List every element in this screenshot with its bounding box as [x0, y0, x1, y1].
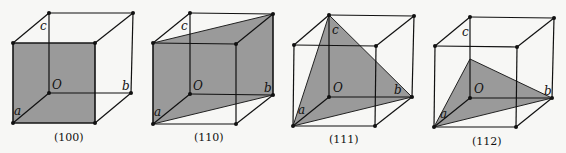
axis-label-b: b: [122, 79, 130, 93]
plane-110: [153, 14, 273, 124]
cube-panel-100: c O b a (100): [11, 11, 135, 144]
axis-label-c: c: [40, 19, 47, 33]
miller-planes-figure: c O b a (100) c O b a: [0, 0, 566, 153]
cube-panel-111: c O b a (111): [291, 13, 416, 146]
cube-panel-110: c O b a (110): [151, 11, 275, 144]
origin-label: O: [193, 79, 203, 93]
axis-label-a: a: [298, 103, 305, 117]
axis-label-a: a: [440, 107, 447, 121]
panel-caption: (110): [194, 131, 224, 144]
axis-label-b: b: [394, 83, 402, 97]
origin-label: O: [474, 82, 484, 96]
panel-caption: (112): [472, 135, 502, 148]
origin-label: O: [52, 78, 62, 92]
axis-label-a: a: [14, 104, 21, 118]
cube-panel-112: c O b a (112): [432, 15, 556, 148]
plane-112: [434, 59, 552, 127]
axis-label-c: c: [332, 23, 339, 37]
axis-label-a: a: [154, 105, 161, 119]
origin-label: O: [333, 81, 343, 95]
panel-caption: (100): [54, 131, 84, 144]
axis-label-c: c: [181, 19, 188, 33]
axis-label-b: b: [544, 84, 552, 98]
panel-caption: (111): [329, 133, 359, 146]
axis-label-b: b: [264, 81, 272, 95]
axis-label-c: c: [462, 25, 469, 39]
